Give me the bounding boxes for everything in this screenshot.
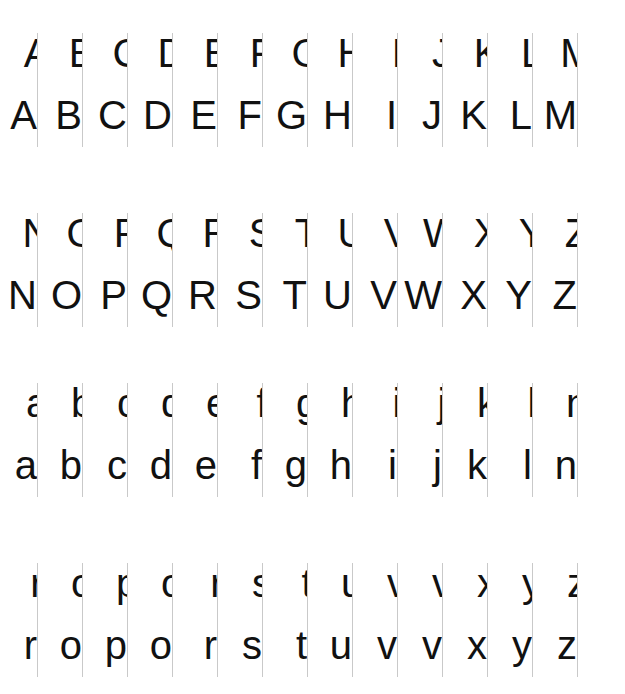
- glyph-left-half: e: [177, 383, 217, 429]
- glyph-left-half: D: [132, 33, 172, 79]
- glyph-left-half: v: [402, 563, 442, 609]
- glyph-left-half: M: [537, 33, 577, 79]
- glyph-right-half: R: [177, 275, 217, 321]
- glyph-right-half: F: [222, 95, 262, 141]
- glyph-right-half: Y: [492, 275, 532, 321]
- vertical-guide-line: [172, 213, 173, 327]
- glyph-right-half-letter: z: [557, 625, 577, 665]
- glyph-right-half: r: [0, 625, 37, 671]
- glyph-right-half-letter: u: [330, 625, 352, 665]
- glyph-right-half-letter: C: [98, 95, 127, 135]
- glyph-right-half: P: [87, 275, 127, 321]
- glyph-right-half-letter: G: [276, 95, 307, 135]
- glyph-right-half-letter: N: [8, 275, 37, 315]
- glyph-right-half-letter: J: [422, 95, 442, 135]
- glyph-right-half: M: [537, 95, 577, 141]
- glyph-left-half-letter: V: [384, 213, 397, 253]
- glyph-right-half-letter: s: [242, 625, 262, 665]
- glyph-right-half: u: [312, 625, 352, 671]
- glyph-right-half-letter: c: [107, 445, 127, 485]
- glyph-left-half: E: [177, 33, 217, 79]
- glyph-right-half-letter: r: [204, 625, 217, 665]
- glyph-right-half: G: [267, 95, 307, 141]
- glyph-left-half: h: [312, 383, 352, 429]
- vertical-guide-line: [172, 563, 173, 677]
- glyph-right-half-letter: O: [51, 275, 82, 315]
- vertical-guide-line: [217, 33, 218, 147]
- glyph-right-half: h: [312, 445, 352, 491]
- vertical-guide-line: [217, 563, 218, 677]
- glyph-left-half: K: [447, 33, 487, 79]
- glyph-left-half-letter: K: [474, 33, 487, 73]
- glyph-right-half-letter: y: [512, 625, 532, 665]
- glyph-right-half: H: [312, 95, 352, 141]
- vertical-guide-line: [307, 213, 308, 327]
- vertical-guide-line: [442, 383, 443, 497]
- glyph-left-half-letter: I: [391, 33, 397, 73]
- glyph-left-half: s: [222, 563, 262, 609]
- glyph-right-half: e: [177, 445, 217, 491]
- glyph-left-half-letter: T: [295, 213, 307, 253]
- glyph-left-half-letter: O: [66, 213, 82, 253]
- vertical-guide-line: [442, 33, 443, 147]
- glyph-right-half-letter: Y: [505, 275, 532, 315]
- glyph-left-half-letter: u: [341, 563, 352, 603]
- glyph-right-half-letter: j: [433, 445, 442, 485]
- glyph-right-half: T: [267, 275, 307, 321]
- glyph-left-half: Q: [132, 213, 172, 259]
- glyph-left-half-letter: g: [296, 383, 307, 423]
- glyph-right-half-letter: S: [235, 275, 262, 315]
- glyph-left-half: r: [177, 563, 217, 609]
- glyph-left-half: l: [492, 383, 532, 429]
- glyph-left-half-letter: H: [338, 33, 352, 73]
- glyph-right-half: t: [267, 625, 307, 671]
- glyph-right-half-letter: Z: [553, 275, 577, 315]
- vertical-guide-line: [127, 563, 128, 677]
- glyph-right-half: K: [447, 95, 487, 141]
- glyph-right-half: b: [42, 445, 82, 491]
- vertical-guide-line: [397, 563, 398, 677]
- glyph-left-half-letter: c: [117, 383, 127, 423]
- vertical-guide-line: [577, 383, 578, 497]
- glyph-left-half-letter: i: [393, 383, 397, 423]
- glyph-right-half-letter: M: [544, 95, 577, 135]
- glyph-left-half-letter: r: [30, 563, 37, 603]
- glyph-left-half: r: [0, 563, 37, 609]
- vertical-guide-line: [82, 563, 83, 677]
- vertical-guide-line: [352, 213, 353, 327]
- glyph-right-half-letter: K: [460, 95, 487, 135]
- glyph-right-half-letter: e: [195, 445, 217, 485]
- glyph-left-half: o: [132, 563, 172, 609]
- vertical-guide-line: [307, 563, 308, 677]
- glyph-left-half-letter: C: [113, 33, 127, 73]
- glyph-left-half: i: [357, 383, 397, 429]
- glyph-left-half-letter: f: [256, 383, 262, 423]
- glyph-left-half-letter: Q: [156, 213, 172, 253]
- glyph-left-half-letter: J: [432, 33, 442, 73]
- glyph-right-half: l: [492, 445, 532, 491]
- glyph-right-half-letter: P: [100, 275, 127, 315]
- glyph-left-half-letter: P: [114, 213, 127, 253]
- glyph-right-half-letter: h: [330, 445, 352, 485]
- glyph-right-half: J: [402, 95, 442, 141]
- vertical-guide-line: [307, 383, 308, 497]
- glyph-left-half-letter: R: [203, 213, 217, 253]
- vertical-guide-line: [262, 563, 263, 677]
- vertical-guide-line: [262, 383, 263, 497]
- glyph-right-half: x: [447, 625, 487, 671]
- glyph-left-half-letter: B: [69, 33, 82, 73]
- glyph-left-half-letter: p: [116, 563, 127, 603]
- glyph-right-half-letter: o: [150, 625, 172, 665]
- glyph-left-half-letter: A: [24, 33, 37, 73]
- glyph-right-half-letter: f: [251, 445, 262, 485]
- glyph-left-half: d: [132, 383, 172, 429]
- glyph-left-half: v: [357, 563, 397, 609]
- vertical-guide-line: [307, 33, 308, 147]
- glyph-right-half: v: [402, 625, 442, 671]
- glyph-left-half-letter: E: [204, 33, 217, 73]
- glyph-right-half: Z: [537, 275, 577, 321]
- vertical-guide-line: [487, 33, 488, 147]
- glyph-right-half: r: [177, 625, 217, 671]
- glyph-right-half-letter: o: [60, 625, 82, 665]
- glyph-left-half: R: [177, 213, 217, 259]
